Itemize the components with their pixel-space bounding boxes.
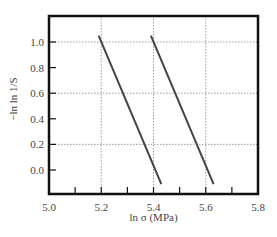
y-tick-label: 0.4 <box>30 113 44 125</box>
data-series <box>99 36 214 184</box>
x-tick-label: 5.6 <box>199 201 213 213</box>
y-tick-label: 0.0 <box>30 164 44 176</box>
x-tick-label: 5.0 <box>42 201 56 213</box>
y-axis-label: −ln ln 1/S <box>7 77 19 121</box>
x-axis-label: ln σ (MPa) <box>129 211 177 224</box>
y-tick-label: 0.2 <box>30 138 44 150</box>
y-tick-label: 0.8 <box>30 62 44 74</box>
x-tick-label: 5.8 <box>251 201 265 213</box>
y-tick-labels: 0.00.20.40.60.81.0 <box>30 36 44 176</box>
y-tick-label: 1.0 <box>30 36 44 48</box>
series-line-1 <box>99 36 162 184</box>
y-tick-label: 0.6 <box>30 87 44 99</box>
x-tick-label: 5.2 <box>94 201 108 213</box>
series-line-2 <box>151 36 214 184</box>
chart: 5.05.25.45.65.8 0.00.20.40.60.81.0 ln σ … <box>0 0 277 237</box>
